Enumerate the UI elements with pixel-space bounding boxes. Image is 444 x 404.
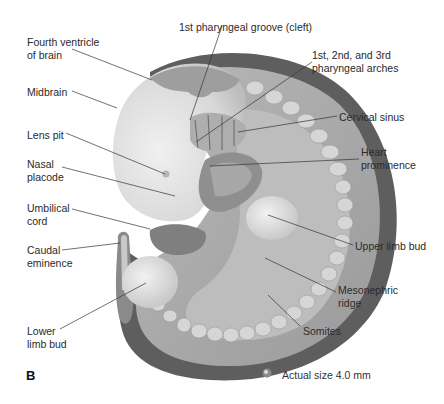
label-upper-limb-bud: Upper limb bud <box>355 240 426 253</box>
label-lens-pit: Lens pit <box>27 129 64 142</box>
panel-label: B <box>26 368 35 383</box>
label-cervical-sinus: Cervical sinus <box>339 111 404 124</box>
label-first-pharyngeal-groove: 1st pharyngeal groove (cleft) <box>179 21 312 34</box>
label-midbrain: Midbrain <box>27 86 67 99</box>
label-heart-prominence: Heart prominence <box>361 146 416 171</box>
lens-pit-dot <box>163 171 170 178</box>
label-lower-limb-bud: Lower limb bud <box>27 325 67 350</box>
upper-limb-bud-shape <box>246 196 298 240</box>
label-pharyngeal-arches: 1st, 2nd, and 3rd pharyngeal arches <box>312 49 398 74</box>
embryo-miniature-icon <box>263 369 272 378</box>
label-umbilical-cord: Umbilical cord <box>27 202 70 227</box>
label-fourth-ventricle: Fourth ventricle of brain <box>27 36 99 61</box>
label-somites: Somites <box>303 325 341 338</box>
label-caudal-eminence: Caudal eminence <box>27 244 73 269</box>
scale-note: Actual size 4.0 mm <box>282 369 371 381</box>
lower-limb-bud-shape <box>122 256 178 308</box>
embryo-diagram: Fourth ventricle of brain 1st pharyngeal… <box>0 0 444 404</box>
label-mesonephric-ridge: Mesonephric ridge <box>338 284 398 309</box>
label-nasal-placode: Nasal placode <box>27 158 64 183</box>
